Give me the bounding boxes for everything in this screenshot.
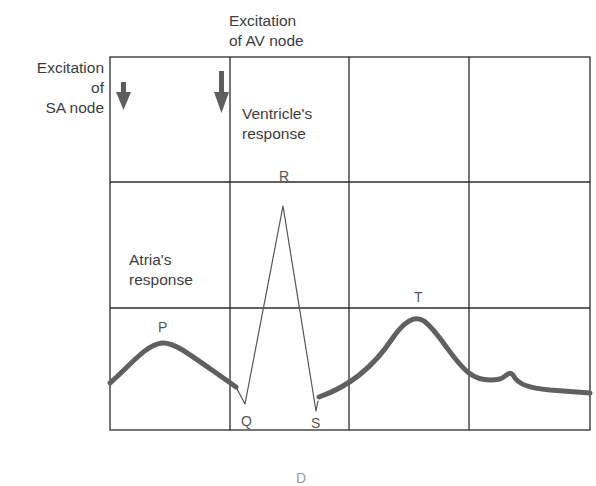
wave-label-s: S	[311, 415, 320, 431]
av-node-label: Excitation of AV node	[229, 11, 304, 51]
grid	[110, 57, 590, 430]
t-wave	[319, 319, 590, 397]
av-node-label-line1: Excitation	[229, 11, 304, 31]
av-node-label-line2: of AV node	[229, 31, 304, 51]
wave-label-t: T	[414, 289, 423, 305]
sa-node-arrow-icon	[116, 82, 131, 110]
wave-label-r: R	[279, 168, 289, 184]
sa-node-label-line2: of	[8, 78, 104, 98]
p-wave	[110, 343, 236, 387]
av-node-arrow-icon	[214, 71, 229, 113]
wave-label-q: Q	[241, 413, 252, 429]
sa-node-label: Excitation of SA node	[8, 58, 104, 118]
sa-node-label-line1: Excitation	[8, 58, 104, 78]
ventricle-label-line2: response	[242, 124, 312, 144]
ventricle-response-label: Ventricle's response	[242, 104, 312, 144]
ventricle-label-line1: Ventricle's	[242, 104, 312, 124]
wave-label-p: P	[158, 319, 167, 335]
footer-partial-text: D	[296, 470, 306, 486]
sa-node-label-line3: SA node	[8, 98, 104, 118]
atria-label-line1: Atria's	[129, 250, 193, 270]
atria-response-label: Atria's response	[129, 250, 193, 290]
atria-label-line2: response	[129, 270, 193, 290]
